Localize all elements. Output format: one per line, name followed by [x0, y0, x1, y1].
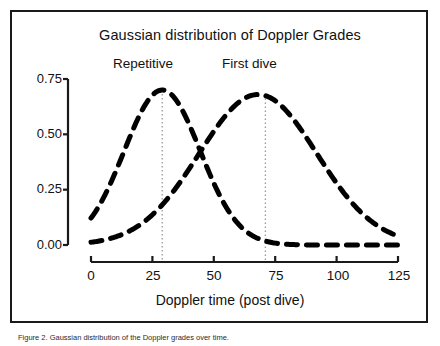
x-tick-label: 0: [68, 268, 114, 283]
chart-title: Gaussian distribution of Doppler Grades: [60, 27, 400, 43]
y-axis-tick-labels: 0.75 0.50 0.25 0.00: [6, 0, 62, 346]
x-tick-label: 50: [191, 268, 237, 283]
figure-caption: Figure 2. Gaussian distribution of the D…: [18, 333, 422, 342]
x-tick-label: 25: [130, 268, 176, 283]
y-tick-label: 0.75: [10, 71, 62, 86]
y-tick-label: 0.00: [10, 237, 62, 252]
x-tick-label: 75: [253, 268, 299, 283]
y-tick-label: 0.50: [10, 126, 62, 141]
x-tick-label: 100: [315, 268, 361, 283]
y-tick-label: 0.25: [10, 181, 62, 196]
x-tick-label: 125: [376, 268, 422, 283]
x-axis-label: Doppler time (post dive): [60, 292, 400, 308]
figure-container: Gaussian distribution of Doppler Grades …: [0, 0, 440, 346]
series-label-first-dive: First dive: [222, 56, 277, 71]
series-label-repetitive: Repetitive: [113, 56, 173, 71]
